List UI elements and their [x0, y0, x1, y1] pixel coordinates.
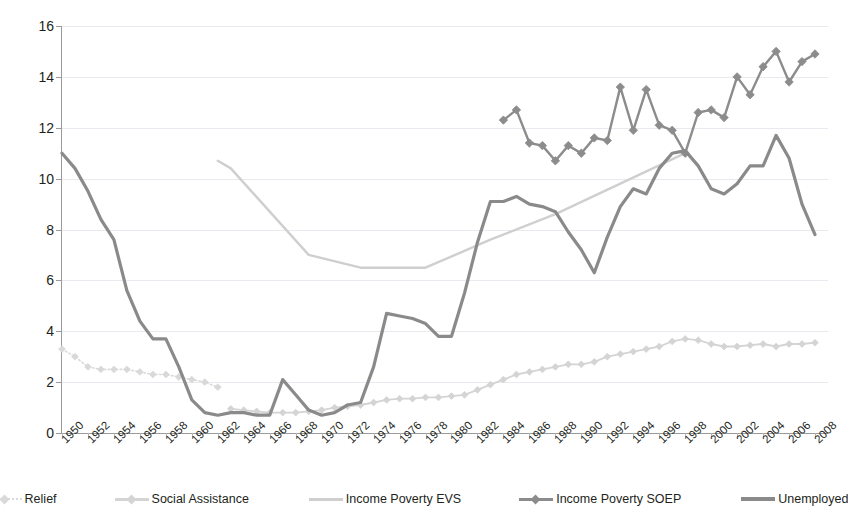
data-point-marker: [163, 371, 170, 378]
data-point-marker: [603, 136, 611, 144]
data-point-marker: [642, 85, 650, 93]
data-point-marker: [124, 366, 131, 373]
data-point-marker: [655, 121, 663, 129]
data-point-marker: [591, 358, 598, 365]
series-line: [231, 339, 815, 413]
series-line: [218, 153, 685, 268]
legend-label: Relief: [25, 492, 57, 506]
data-point-marker: [708, 341, 715, 348]
legend: ReliefSocial AssistanceIncome Poverty EV…: [0, 488, 836, 510]
legend-swatch-icon: [0, 493, 22, 505]
data-point-marker: [539, 366, 546, 373]
data-point-marker: [474, 386, 481, 393]
data-point-marker: [812, 339, 819, 346]
legend-marker-icon: [0, 494, 9, 504]
legend-marker-icon: [531, 494, 541, 504]
data-point-marker: [694, 108, 702, 116]
data-point-marker: [682, 336, 689, 343]
legend-swatch-icon: [519, 493, 553, 505]
data-point-marker: [98, 366, 105, 373]
legend-item-relief[interactable]: Relief: [0, 492, 57, 506]
data-point-marker: [59, 346, 66, 353]
data-point-marker: [214, 384, 221, 391]
data-point-marker: [629, 126, 637, 134]
data-point-marker: [643, 346, 650, 353]
series-income-poverty-evs: [218, 153, 685, 268]
series-line: [503, 51, 815, 160]
data-point-marker: [799, 341, 806, 348]
legend-label: Income Poverty SOEP: [556, 492, 681, 506]
series-social-assistance: [227, 336, 818, 417]
data-point-marker: [526, 369, 533, 376]
data-point-marker: [137, 369, 144, 376]
legend-item-income-poverty-soep[interactable]: Income Poverty SOEP: [519, 492, 681, 506]
data-point-marker: [747, 342, 754, 349]
legend-label: Unemployed: [778, 492, 848, 506]
data-point-marker: [525, 139, 533, 147]
legend-swatch-icon: [741, 493, 775, 505]
data-point-marker: [318, 407, 325, 414]
data-point-marker: [513, 371, 520, 378]
data-point-marker: [188, 376, 195, 383]
data-point-marker: [292, 409, 299, 416]
data-point-marker: [760, 341, 767, 348]
data-point-marker: [370, 399, 377, 406]
data-point-marker: [773, 343, 780, 350]
series-line: [62, 135, 815, 415]
data-point-marker: [786, 341, 793, 348]
data-point-marker: [630, 348, 637, 355]
data-point-marker: [552, 364, 559, 371]
data-point-marker: [396, 395, 403, 402]
data-point-marker: [669, 338, 676, 345]
data-point-marker: [734, 343, 741, 350]
data-point-marker: [448, 393, 455, 400]
data-point-marker: [487, 381, 494, 388]
series-unemployed: [62, 135, 815, 415]
data-point-marker: [500, 376, 507, 383]
legend-swatch-icon: [309, 493, 343, 505]
data-point-marker: [695, 337, 702, 344]
legend-item-income-poverty-evs[interactable]: Income Poverty EVS: [309, 492, 461, 506]
legend-label: Social Assistance: [152, 492, 249, 506]
data-point-marker: [201, 379, 208, 386]
data-point-marker: [721, 343, 728, 350]
data-point-marker: [656, 343, 663, 350]
data-point-marker: [616, 83, 624, 91]
legend-item-unemployed[interactable]: Unemployed: [741, 492, 848, 506]
data-point-marker: [435, 394, 442, 401]
data-point-marker: [150, 371, 157, 378]
legend-swatch-icon: [115, 493, 149, 505]
legend-label: Income Poverty EVS: [346, 492, 461, 506]
data-point-marker: [383, 397, 390, 404]
data-point-marker: [617, 351, 624, 358]
data-point-marker: [279, 409, 286, 416]
data-point-marker: [422, 394, 429, 401]
legend-item-social-assistance[interactable]: Social Assistance: [115, 492, 249, 506]
series-relief: [59, 346, 222, 391]
data-point-marker: [604, 353, 611, 360]
data-point-marker: [565, 361, 572, 368]
data-point-marker: [72, 353, 79, 360]
legend-marker-icon: [126, 494, 136, 504]
data-point-marker: [409, 395, 416, 402]
data-point-marker: [461, 391, 468, 398]
data-point-marker: [111, 366, 118, 373]
data-point-marker: [578, 361, 585, 368]
